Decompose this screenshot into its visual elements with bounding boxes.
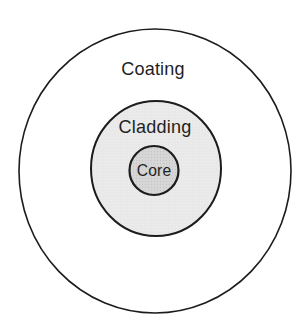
cladding-label: Cladding — [119, 116, 192, 138]
core-label: Core — [137, 161, 172, 180]
coating-label: Coating — [121, 58, 185, 80]
fiber-cross-section-diagram: Coating Cladding Core — [0, 0, 308, 325]
